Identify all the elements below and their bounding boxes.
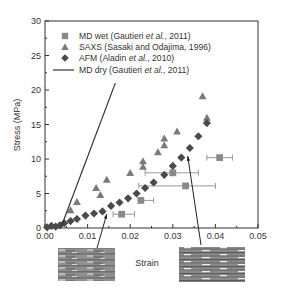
- data-point: [124, 194, 132, 202]
- data-point: [154, 148, 162, 155]
- data-point: [160, 134, 168, 141]
- data-point: [115, 198, 123, 206]
- right-structure-image: [179, 247, 245, 282]
- x-tick-label: 0.04: [207, 231, 225, 241]
- data-point: [194, 132, 202, 140]
- data-point: [141, 184, 149, 192]
- x-tick-label: 0.03: [164, 231, 182, 241]
- data-point: [73, 215, 81, 223]
- data-point: [73, 198, 81, 205]
- y-tick-label: 10: [31, 154, 41, 164]
- md-dry-line: [61, 83, 116, 228]
- legend-label-part: et al.: [144, 65, 163, 75]
- y-tick-label: 30: [31, 16, 41, 26]
- legend-label-part: , 2011): [163, 65, 189, 75]
- data-point: [139, 157, 147, 164]
- series-line: [61, 83, 116, 228]
- legend-label-part: SAXS (Sasaki and Odajima, 1996): [79, 42, 211, 52]
- legend-label: AFM (Aladin et al., 2010): [79, 53, 174, 63]
- legend-label-part: , 2010): [147, 53, 174, 63]
- data-point: [96, 191, 104, 198]
- data-point: [81, 212, 89, 220]
- legend-triangle-icon: [61, 43, 68, 50]
- data-point: [126, 169, 134, 176]
- arrow-head-icon: [187, 156, 190, 161]
- data-point: [103, 176, 111, 183]
- legend: MD wet (Gautieri et al., 2011)SAXS (Sasa…: [53, 31, 211, 75]
- data-point: [98, 207, 106, 215]
- data-point: [169, 162, 177, 170]
- stress-strain-chart: 0.000.010.020.030.040.05051015202530MD w…: [0, 0, 281, 294]
- data-point: [90, 209, 98, 217]
- x-tick-label: 0.02: [121, 231, 139, 241]
- data-point: [92, 184, 100, 191]
- data-point: [177, 154, 185, 162]
- legend-label-part: MD wet (Gautieri: [79, 31, 146, 41]
- data-point: [107, 202, 115, 210]
- data-point: [160, 171, 168, 179]
- data-point: [160, 141, 168, 148]
- legend-square-icon: [62, 33, 68, 39]
- legend-label-part: MD dry (Gautieri: [79, 65, 144, 75]
- legend-label-part: et al.: [146, 31, 165, 41]
- left-structure-image: [58, 248, 115, 281]
- data-point: [173, 127, 181, 134]
- legend-diamond-icon: [61, 54, 69, 62]
- data-point: [66, 217, 74, 225]
- legend-label: MD wet (Gautieri et al., 2011): [79, 31, 191, 41]
- data-point: [133, 189, 141, 197]
- x-tick-label: 0.05: [249, 231, 267, 241]
- data-point: [182, 183, 189, 190]
- y-axis-title: Stress (MPa): [12, 99, 22, 152]
- legend-label-part: et al.: [129, 53, 148, 63]
- y-tick-label: 15: [31, 120, 41, 130]
- data-point: [137, 197, 144, 204]
- data-point: [216, 154, 223, 161]
- plot-area: 0.000.010.020.030.040.05051015202530MD w…: [31, 16, 267, 248]
- data-point: [118, 211, 125, 218]
- legend-label-part: AFM (Aladin: [79, 53, 129, 63]
- x-tick-label: 0.01: [79, 231, 97, 241]
- y-tick-label: 25: [31, 51, 41, 61]
- legend-label-part: , 2011): [165, 31, 191, 41]
- data-point: [186, 144, 194, 152]
- data-point: [150, 178, 158, 186]
- annotation-arrow: [188, 156, 201, 245]
- y-tick-label: 20: [31, 85, 41, 95]
- x-axis-title: Strain: [135, 258, 159, 268]
- legend-label: SAXS (Sasaki and Odajima, 1996): [79, 42, 211, 52]
- annotation-arrow: [97, 214, 107, 248]
- arrow-head-icon: [104, 214, 107, 219]
- legend-label: MD dry (Gautieri et al., 2011): [79, 65, 189, 75]
- y-tick-label: 5: [36, 189, 41, 199]
- y-tick-label: 0: [36, 223, 41, 233]
- data-point: [169, 169, 176, 176]
- data-point: [199, 92, 207, 99]
